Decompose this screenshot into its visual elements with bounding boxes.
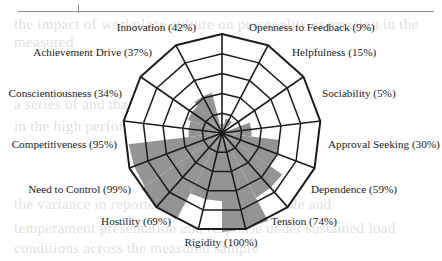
radar-axis-label: Sociability (5%) [322,88,396,99]
radar-axis-label: Innovation (42%) [0,22,196,33]
radar-axis-label: Approval Seeking (30%) [328,139,440,150]
radar-axis-label: Tension (74%) [271,216,337,227]
radar-axis-label: Dependence (59%) [311,184,397,195]
radar-axis-label: Achievement Drive (37%) [0,47,152,58]
radar-axis-label: Helpfulness (15%) [292,47,376,58]
radar-axis-label: Conscientiousness (34%) [0,88,122,99]
radar-axis-label: Competitiveness (95%) [0,139,117,150]
radar-axis-label: Hostility (69%) [0,216,171,227]
radar-axis-label: Need to Control (99%) [0,184,131,195]
radar-axis-label: Openness to Feedback (9%) [249,22,375,33]
radar-chart: Openness to Feedback (9%)Helpfulness (15… [0,0,442,261]
radar-axis-label: Rigidity (100%) [0,237,442,248]
